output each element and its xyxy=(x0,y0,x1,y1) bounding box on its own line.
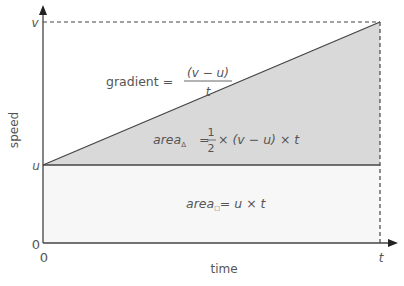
y-axis-label: speed xyxy=(7,112,21,148)
gradient-label: gradient = xyxy=(106,74,173,89)
v-tick-label: v xyxy=(31,16,39,30)
x-origin-label: 0 xyxy=(40,250,48,265)
u-tick-label: u xyxy=(32,159,40,173)
half-denominator: 2 xyxy=(208,142,215,155)
x-axis-label: time xyxy=(210,262,237,276)
x-axis-arrow-icon xyxy=(388,239,398,247)
triangle-area-rhs: × (v − u) × t xyxy=(218,132,300,147)
half-numerator: 1 xyxy=(208,126,215,139)
speed-time-graph: v u 0 0 t speed time gradient = (v − u) … xyxy=(0,0,404,286)
y-axis-arrow-icon xyxy=(39,5,47,15)
rectangle-area-label: area□= u × t xyxy=(186,196,267,211)
gradient-numerator: (v − u) xyxy=(187,66,229,80)
t-tick-label: t xyxy=(379,251,385,265)
